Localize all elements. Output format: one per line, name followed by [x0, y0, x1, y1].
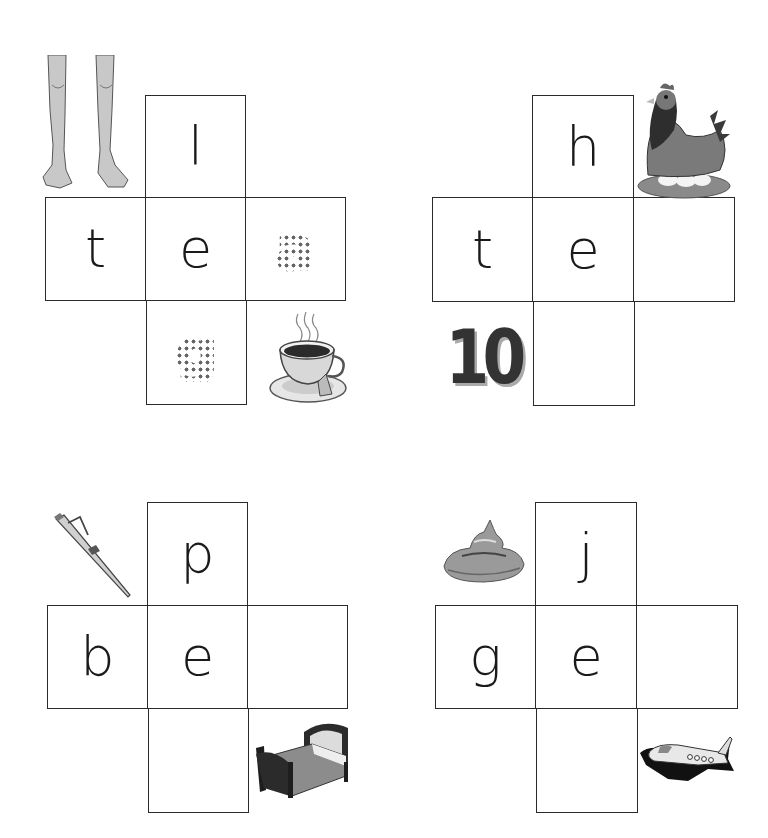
puzzle-3-left-cell: b	[47, 605, 148, 709]
cell-letter: e	[181, 630, 214, 684]
puzzle-4-center-cell: e	[535, 605, 637, 709]
bed-icon	[252, 718, 352, 800]
cell-letter: g	[469, 630, 501, 684]
puzzle-4-top-cell: j	[535, 502, 637, 606]
puzzle-2-left-cell: t	[432, 197, 533, 302]
pen-icon	[50, 513, 135, 599]
puzzle-3-top-cell: p	[147, 502, 248, 606]
number-ten-picture: 10	[440, 315, 524, 399]
puzzle-2-bottom-cell[interactable]	[533, 301, 635, 406]
puzzle-1-top-cell: l	[145, 95, 246, 198]
cell-letter: b	[80, 630, 114, 684]
jet-icon	[638, 735, 738, 785]
tracing-letter: g	[176, 324, 218, 382]
tracing-letter: a	[276, 220, 315, 278]
cell-letter: p	[180, 527, 214, 581]
puzzle-3-bottom-cell[interactable]	[148, 708, 249, 813]
puzzle-1-bottom-cell[interactable]: g	[146, 300, 247, 405]
legs-icon	[40, 55, 135, 190]
number-ten-text: 10	[445, 320, 519, 394]
puzzle-4-bottom-cell[interactable]	[536, 708, 638, 813]
puzzle-2-right-cell[interactable]	[633, 197, 735, 302]
cell-letter: e	[569, 630, 602, 684]
cell-letter: t	[472, 223, 493, 277]
cell-letter: l	[188, 120, 203, 174]
tea-cup-icon	[268, 312, 350, 404]
cell-letter: t	[85, 222, 106, 276]
puzzle-4-left-cell: g	[435, 605, 536, 709]
puzzle-2-center-cell: e	[532, 197, 634, 302]
puzzle-2-top-cell: h	[532, 95, 634, 198]
puzzle-1-left-cell: t	[45, 197, 146, 301]
hen-icon	[634, 80, 732, 200]
puzzle-4-right-cell[interactable]	[636, 605, 738, 709]
cell-letter: e	[566, 223, 599, 277]
puzzle-1-center-cell: e	[145, 197, 246, 301]
cell-letter: h	[566, 120, 600, 174]
puzzle-1-right-cell[interactable]: a	[245, 197, 346, 301]
gel-icon	[440, 520, 526, 584]
puzzle-3-center-cell: e	[147, 605, 248, 709]
puzzle-3-right-cell[interactable]	[247, 605, 348, 709]
cell-letter: j	[578, 527, 593, 581]
cell-letter: e	[179, 222, 212, 276]
